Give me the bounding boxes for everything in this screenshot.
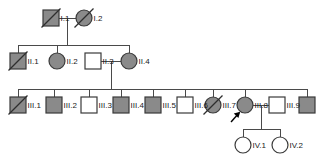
individual-label: III.8 bbox=[255, 101, 269, 110]
female-affected-circle[interactable] bbox=[121, 53, 137, 69]
individual-label: III.9 bbox=[287, 101, 301, 110]
individual-label: III.7 bbox=[223, 101, 237, 110]
individual-iii-10[interactable] bbox=[299, 97, 315, 113]
female-unaffected-circle[interactable] bbox=[235, 137, 251, 153]
individual-iv-2[interactable] bbox=[272, 137, 288, 153]
male-unaffected-square[interactable] bbox=[269, 97, 285, 113]
female-affected-circle[interactable] bbox=[49, 53, 65, 69]
individual-label: III.3 bbox=[99, 101, 113, 110]
pedigree-canvas: I.1I.2II.1II.2II.3II.4III.1III.2III.3III… bbox=[0, 0, 324, 159]
individual-iv-1[interactable] bbox=[235, 137, 251, 153]
female-unaffected-circle[interactable] bbox=[272, 137, 288, 153]
individual-ii-1[interactable] bbox=[9, 52, 28, 71]
individual-ii-4[interactable] bbox=[121, 53, 137, 69]
individual-label: IV.2 bbox=[290, 141, 304, 150]
individual-iii-8[interactable] bbox=[237, 97, 253, 113]
individual-iii-4[interactable] bbox=[113, 97, 129, 113]
individual-label: II.2 bbox=[67, 57, 79, 66]
individual-iii-2[interactable] bbox=[46, 97, 62, 113]
individual-label: III.2 bbox=[64, 101, 78, 110]
individual-i-2[interactable] bbox=[75, 9, 94, 28]
individual-symbols bbox=[9, 9, 316, 154]
individual-label: IV.1 bbox=[253, 141, 267, 150]
individual-label: III.1 bbox=[28, 101, 42, 110]
individual-label: II.3 bbox=[103, 57, 115, 66]
individual-label: III.5 bbox=[163, 101, 177, 110]
male-affected-square[interactable] bbox=[46, 97, 62, 113]
proband-arrow-marker bbox=[231, 112, 240, 122]
individual-ii-3[interactable] bbox=[85, 53, 101, 69]
individual-label: II.1 bbox=[28, 57, 40, 66]
individual-iii-6[interactable] bbox=[177, 97, 193, 113]
individual-label: III.6 bbox=[195, 101, 209, 110]
individual-iii-3[interactable] bbox=[81, 97, 97, 113]
individual-label: I.1 bbox=[61, 14, 70, 23]
individual-iii-5[interactable] bbox=[145, 97, 161, 113]
individual-label: III.4 bbox=[131, 101, 145, 110]
male-affected-square[interactable] bbox=[113, 97, 129, 113]
individual-label: II.4 bbox=[139, 57, 151, 66]
male-unaffected-square[interactable] bbox=[81, 97, 97, 113]
male-affected-square[interactable] bbox=[145, 97, 161, 113]
female-affected-circle[interactable] bbox=[237, 97, 253, 113]
male-affected-square[interactable] bbox=[299, 97, 315, 113]
individual-ii-2[interactable] bbox=[49, 53, 65, 69]
connector-lines bbox=[18, 18, 307, 137]
individual-iii-1[interactable] bbox=[9, 96, 28, 115]
pedigree-chart: I.1I.2II.1II.2II.3II.4III.1III.2III.3III… bbox=[0, 0, 324, 159]
male-unaffected-square[interactable] bbox=[85, 53, 101, 69]
individual-iii-9[interactable] bbox=[269, 97, 285, 113]
male-unaffected-square[interactable] bbox=[177, 97, 193, 113]
individual-label: I.2 bbox=[94, 14, 103, 23]
individual-i-1[interactable] bbox=[42, 9, 61, 28]
